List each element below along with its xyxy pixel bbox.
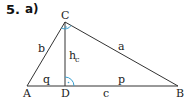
label-b: b bbox=[38, 42, 45, 55]
angle-c-dot bbox=[65, 26, 67, 28]
label-c: c bbox=[103, 87, 109, 98]
right-angle-mark bbox=[65, 77, 74, 86]
label-C: C bbox=[61, 9, 69, 22]
label-A: A bbox=[22, 87, 32, 98]
label-a: a bbox=[118, 40, 125, 53]
label-B: B bbox=[176, 87, 184, 98]
label-q: q bbox=[43, 73, 50, 86]
triangle-diagram: C A D B b a q p c h c bbox=[0, 0, 190, 98]
label-p: p bbox=[118, 73, 125, 86]
right-angle-dot bbox=[68, 82, 70, 84]
figure-container: 5. a) C A D B b a q p c h c bbox=[0, 0, 190, 98]
label-h-subscript: c bbox=[75, 55, 80, 64]
label-D: D bbox=[61, 87, 70, 98]
